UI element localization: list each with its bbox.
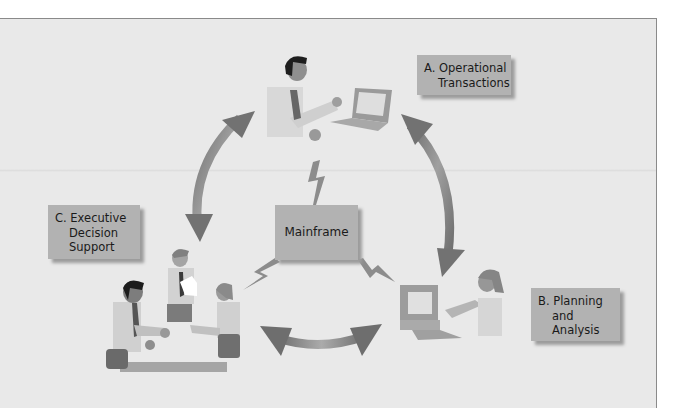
- box-c-line-2: Decision: [55, 226, 133, 241]
- person-at-desktop-figure: [400, 270, 504, 340]
- arrow-a-to-c: [185, 111, 255, 242]
- box-b-line-2: and: [538, 309, 613, 324]
- box-b-line-1: B. Planning: [538, 294, 613, 309]
- lightning-bolt-to-b: [358, 258, 395, 282]
- executive-decision-support-box: C. Executive Decision Support: [48, 205, 140, 259]
- box-a-line-1: A. Operational: [424, 61, 504, 76]
- box-a-line-2: Transactions: [424, 76, 504, 91]
- mainframe-label: Mainframe: [284, 225, 348, 240]
- arrow-b-to-c: [260, 324, 382, 356]
- executive-meeting-figure: [106, 249, 240, 372]
- arrow-a-to-b: [401, 114, 465, 277]
- operational-transactions-box: A. Operational Transactions: [417, 55, 511, 95]
- person-with-laptop-figure: [267, 56, 392, 141]
- lightning-bolt-to-c: [243, 258, 280, 290]
- planning-analysis-box: B. Planning and Analysis: [531, 288, 620, 341]
- mainframe-box: Mainframe: [275, 205, 358, 260]
- box-b-line-3: Analysis: [538, 323, 613, 338]
- box-c-line-3: Support: [55, 240, 133, 255]
- lightning-bolt-to-a: [308, 160, 325, 205]
- box-c-line-1: C. Executive: [55, 211, 133, 226]
